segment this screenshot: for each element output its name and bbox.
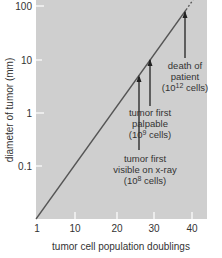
annotation-palpable: tumor first palpable (109 cells)	[129, 107, 172, 140]
y-axis-label: diameter of tumor (mm)	[4, 58, 15, 162]
y-tick-label: 100	[15, 1, 32, 12]
plot-area	[36, 0, 207, 219]
svg-text:(1012 cells): (1012 cells)	[162, 82, 208, 94]
x-tick-label: 10	[69, 223, 81, 234]
x-axis-label: tumor cell population doublings	[52, 241, 190, 252]
x-tick-label: 1	[34, 223, 40, 234]
svg-text:(108 cells): (108 cells)	[124, 175, 166, 187]
chart: 100 10 1 0.1 diameter of tumor (mm) 1 10…	[0, 0, 222, 258]
x-tick-label: 40	[186, 223, 198, 234]
svg-text:patient: patient	[171, 71, 200, 82]
x-tick-label: 30	[148, 223, 160, 234]
y-tick-label: 1	[26, 108, 32, 119]
svg-text:(109 cells): (109 cells)	[129, 129, 171, 141]
y-tick-label: 0.1	[18, 161, 32, 172]
svg-text:palpable: palpable	[132, 118, 168, 129]
y-tick-label: 10	[21, 55, 33, 66]
svg-text:tumor first: tumor first	[129, 107, 172, 118]
svg-text:death of: death of	[168, 60, 203, 71]
svg-text:visible on x-ray: visible on x-ray	[113, 164, 177, 175]
x-tick-label: 20	[111, 223, 123, 234]
svg-text:tumor first: tumor first	[124, 153, 167, 164]
